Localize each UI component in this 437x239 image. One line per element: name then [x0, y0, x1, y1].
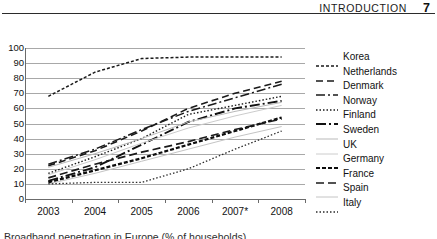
x-tick-label: 2007*	[212, 206, 258, 217]
x-tick-label: 2003	[25, 206, 71, 217]
legend-label: Germany	[343, 152, 384, 166]
legend-item-finland[interactable]: Finland	[316, 108, 434, 123]
y-tick-label: 40	[0, 134, 24, 143]
legend-swatch-icon	[316, 113, 338, 119]
series-line	[48, 105, 281, 174]
legend-label: Denmark	[343, 79, 384, 93]
header-page-number: 7	[423, 1, 430, 15]
header-title: Introduction	[319, 2, 407, 14]
legend-label: Netherlands	[343, 65, 397, 79]
y-tick-label: 100	[0, 43, 24, 52]
legend-item-sweden[interactable]: Sweden	[316, 123, 434, 138]
legend-item-denmark[interactable]: Denmark	[316, 79, 434, 94]
legend-item-norway[interactable]: Norway	[316, 94, 434, 109]
legend-label: UK	[343, 138, 357, 152]
legend-swatch-icon	[316, 84, 338, 90]
y-tick-label: 50	[0, 119, 24, 128]
x-tick-label: 2004	[72, 206, 118, 217]
legend-swatch-icon	[316, 55, 338, 61]
legend-swatch-icon	[316, 143, 338, 149]
legend-label: Sweden	[343, 123, 379, 137]
y-tick-label: 20	[0, 164, 24, 173]
y-tick-label: 90	[0, 58, 24, 67]
legend-label: Korea	[343, 50, 370, 64]
y-tick-label: 80	[0, 73, 24, 82]
legend-item-france[interactable]: France	[316, 167, 434, 182]
legend-swatch-icon	[316, 99, 338, 105]
legend-swatch-icon	[316, 128, 338, 134]
legend-swatch-icon	[316, 201, 338, 207]
legend-label: Finland	[343, 108, 376, 122]
legend-item-spain[interactable]: Spain	[316, 181, 434, 196]
x-tick-label: 2006	[165, 206, 211, 217]
legend-item-italy[interactable]: Italy	[316, 196, 434, 211]
legend-label: Norway	[343, 94, 377, 108]
legend-label: Spain	[343, 181, 369, 195]
y-tick-label: 70	[0, 88, 24, 97]
legend-item-uk[interactable]: UK	[316, 138, 434, 153]
running-header: Introduction 7	[0, 0, 437, 22]
legend-label: France	[343, 167, 374, 181]
legend-swatch-icon	[316, 157, 338, 163]
legend-swatch-icon	[316, 186, 338, 192]
legend-item-korea[interactable]: Korea	[316, 50, 434, 65]
y-tick-label: 0	[0, 194, 24, 203]
legend-label: Italy	[343, 196, 361, 210]
x-tick	[305, 199, 306, 203]
chart-legend: KoreaNetherlandsDenmarkNorwayFinlandSwed…	[316, 50, 434, 211]
y-tick-label: 30	[0, 149, 24, 158]
y-tick-label: 10	[0, 179, 24, 188]
x-tick-label: 2005	[119, 206, 165, 217]
legend-swatch-icon	[316, 70, 338, 76]
legend-item-netherlands[interactable]: Netherlands	[316, 65, 434, 80]
series-lines	[25, 48, 305, 200]
figure-caption: Broadband penetration in Europe (% of ho…	[4, 231, 434, 239]
x-tick-label: 2008	[259, 206, 305, 217]
legend-swatch-icon	[316, 172, 338, 178]
legend-item-germany[interactable]: Germany	[316, 152, 434, 167]
y-tick-label: 60	[0, 103, 24, 112]
